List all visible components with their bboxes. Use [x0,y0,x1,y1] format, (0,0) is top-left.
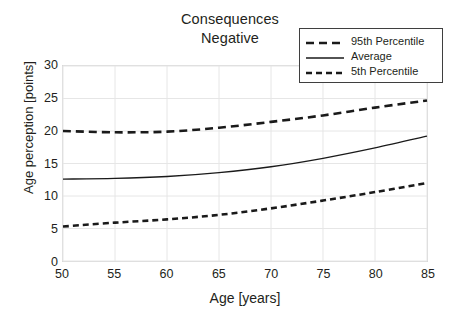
legend-item: 95th Percentile [305,33,436,48]
series-line [63,183,427,227]
y-axis-tick-label: 10 [32,190,58,202]
legend-item-label: 5th Percentile [351,65,418,77]
x-axis-title: Age [years] [62,290,428,306]
legend-item-label: Average [351,50,392,62]
x-axis-tick-label: 55 [94,268,134,280]
legend-item: Average [305,48,436,63]
x-axis-tick-label: 50 [42,268,82,280]
plot-area [62,65,428,262]
x-axis-tick-label: 65 [199,268,239,280]
chart-figure: Consequences Negative Age perception [po… [0,0,467,328]
dashed-line-key [305,65,345,77]
chart-title-line-1: Consequences [150,10,310,29]
series-line [63,136,427,179]
dashed-line-key [305,35,345,47]
x-axis-tick-label: 70 [251,268,291,280]
chart-title-line-2: Negative [150,29,310,48]
x-axis-tick-label: 75 [303,268,343,280]
x-axis-tick-label: 85 [408,268,448,280]
y-axis-tick-labels: 051015202530 [28,65,58,262]
legend-item: 5th Percentile [305,63,436,78]
y-axis-tick-label: 15 [32,158,58,170]
solid-line-key [305,50,345,62]
chart-legend: 95th PercentileAverage5th Percentile [299,28,443,83]
y-axis-tick-label: 30 [32,59,58,71]
chart-title: Consequences Negative [150,10,310,48]
legend-item-label: 95th Percentile [351,35,424,47]
series-line [63,100,427,132]
x-axis-tick-label: 60 [147,268,187,280]
y-axis-tick-label: 20 [32,125,58,137]
x-axis-tick-label: 80 [356,268,396,280]
y-axis-tick-label: 5 [32,223,58,235]
x-axis-tick-labels: 5055606570758085 [62,268,428,284]
y-axis-tick-label: 25 [32,92,58,104]
data-series-layer [63,66,427,261]
